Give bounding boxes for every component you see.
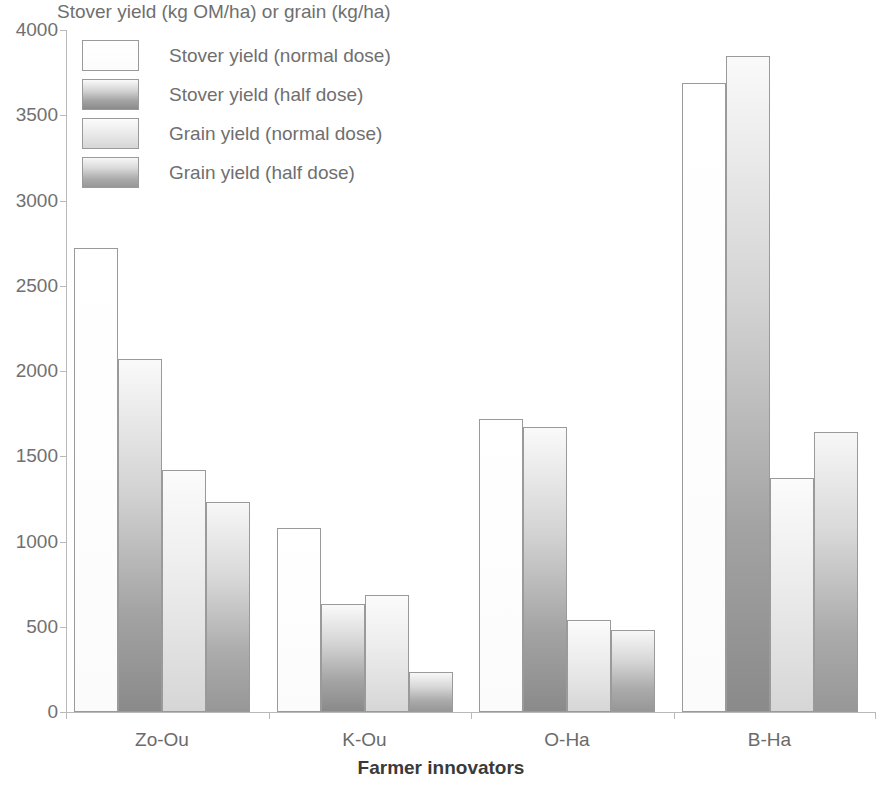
y-axis-tick-labels: [0, 0, 60, 682]
legend-label: Stover yield (normal dose): [169, 45, 391, 66]
y-axis-tick: [60, 542, 67, 543]
legend-swatch: [82, 79, 139, 110]
legend-item: Stover yield (half dose): [82, 75, 502, 114]
bar: [118, 359, 162, 712]
bar: [814, 432, 858, 712]
legend-label: Stover yield (half dose): [169, 84, 363, 105]
y-axis-tick: [60, 115, 67, 116]
y-axis-tick-label: 2500: [16, 276, 58, 295]
x-axis-tick: [471, 712, 472, 719]
x-axis-tick: [674, 712, 675, 719]
x-axis-tick: [875, 712, 876, 719]
legend: Stover yield (normal dose)Stover yield (…: [82, 36, 502, 192]
y-axis-tick-label: 0: [47, 702, 58, 721]
x-axis-category-label: Zo-Ou: [102, 730, 222, 750]
bar: [409, 672, 453, 712]
y-axis-tick-label: 1500: [16, 446, 58, 465]
bar: [479, 419, 523, 712]
x-axis-ticks-and-labels: Zo-OuK-OuO-HaB-Ha: [66, 712, 876, 752]
y-axis-tick: [60, 627, 67, 628]
x-axis-tick: [269, 712, 270, 719]
y-axis-tick-label: 4000: [16, 20, 58, 39]
y-axis-tick-label: 3000: [16, 191, 58, 210]
y-axis-tick-label: 1000: [16, 532, 58, 551]
bar: [321, 604, 365, 712]
legend-swatch: [82, 40, 139, 71]
figure: Stover yield (kg OM/ha) or grain (kg/ha)…: [0, 0, 882, 789]
bar: [206, 502, 250, 712]
bar: [523, 427, 567, 712]
y-axis-tick: [60, 712, 67, 713]
x-axis-tick: [66, 712, 67, 719]
legend-item: Grain yield (normal dose): [82, 114, 502, 153]
legend-label: Grain yield (normal dose): [169, 123, 382, 144]
y-axis-tick-label: 3500: [16, 105, 58, 124]
bar: [277, 528, 321, 712]
bar: [365, 595, 409, 712]
legend-item: Stover yield (normal dose): [82, 36, 502, 75]
x-axis-category-label: O-Ha: [507, 730, 627, 750]
x-axis-category-label: B-Ha: [710, 730, 830, 750]
legend-item: Grain yield (half dose): [82, 153, 502, 192]
legend-swatch: [82, 157, 139, 188]
bar: [162, 470, 206, 712]
y-axis-tick-label: 2000: [16, 361, 58, 380]
y-axis-tick-label: 500: [26, 617, 58, 636]
legend-label: Grain yield (half dose): [169, 162, 355, 183]
bar: [770, 478, 814, 712]
bar: [682, 83, 726, 712]
y-axis-tick: [60, 286, 67, 287]
chart-title: Stover yield (kg OM/ha) or grain (kg/ha): [57, 1, 391, 22]
x-axis-category-label: K-Ou: [305, 730, 425, 750]
bar: [567, 620, 611, 712]
bar: [74, 248, 118, 712]
bar: [611, 630, 655, 712]
bar: [726, 56, 770, 712]
x-axis-title: Farmer innovators: [0, 757, 882, 779]
legend-swatch: [82, 118, 139, 149]
y-axis-tick: [60, 30, 67, 31]
y-axis-tick: [60, 371, 67, 372]
y-axis-tick: [60, 456, 67, 457]
y-axis-tick: [60, 201, 67, 202]
